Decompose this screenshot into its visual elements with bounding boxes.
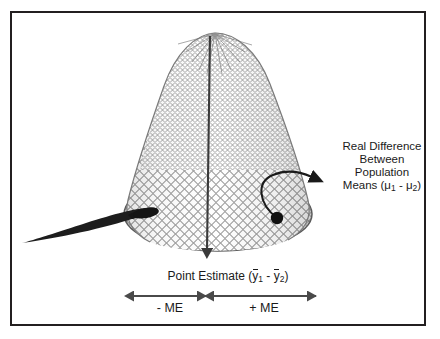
negative-me-label: - ME: [132, 302, 208, 315]
mu-2-symbol: μ: [406, 179, 413, 191]
y-bar-2: y: [274, 270, 280, 282]
point-estimate-prefix: Point Estimate (: [168, 269, 253, 283]
point-estimate-suffix: ): [284, 269, 288, 283]
means-minus: -: [396, 179, 406, 191]
positive-me-label: + ME: [212, 302, 316, 315]
figure-root: Real Difference Between Population Means…: [0, 0, 440, 339]
real-difference-line-3: Population: [322, 167, 440, 179]
real-difference-line-2: Between: [322, 154, 440, 166]
mu-1-symbol: μ: [384, 179, 391, 191]
y-bar-1: y: [252, 270, 258, 282]
means-prefix: Means (: [343, 179, 385, 191]
sample-point-dot: [271, 212, 283, 224]
real-difference-line-4: Means (μ1 - μ2): [322, 180, 440, 192]
point-estimate-minus: -: [263, 269, 274, 283]
means-suffix: ): [417, 179, 421, 191]
point-estimate-label: Point Estimate (y1 - y2): [128, 270, 328, 283]
net-bell-body: [110, 25, 325, 260]
real-difference-line-1: Real Difference: [322, 141, 440, 153]
